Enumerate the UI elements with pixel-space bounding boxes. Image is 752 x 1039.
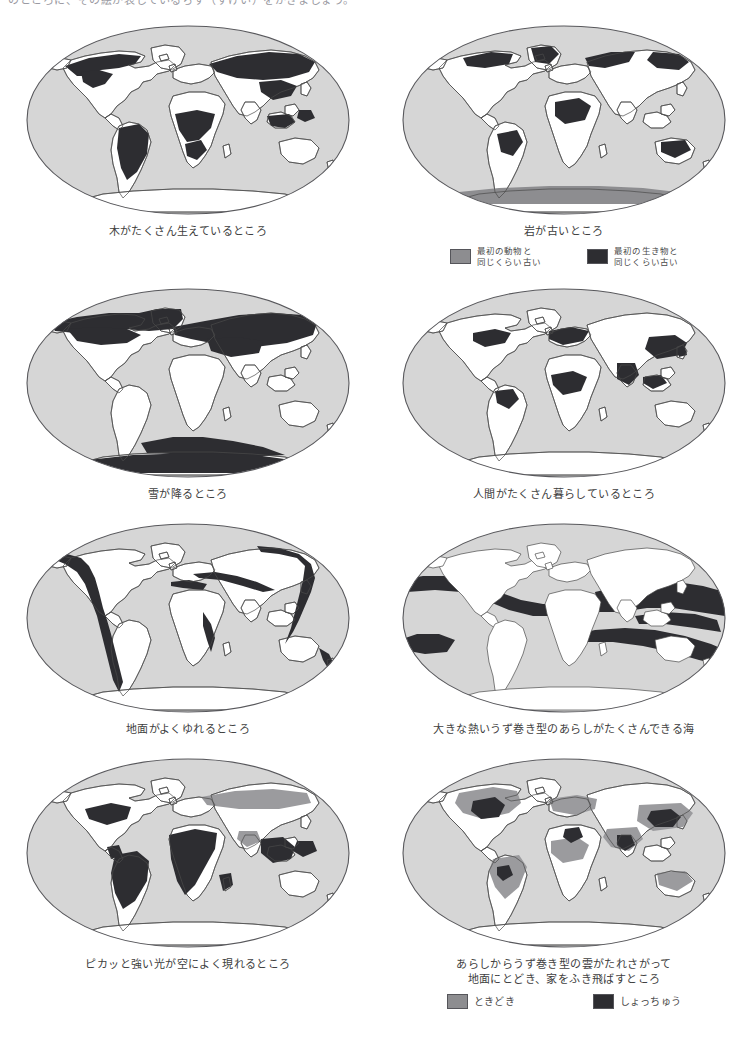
legend-item: しょっちゅう [593, 994, 681, 1009]
world-map-forests [23, 22, 353, 218]
row-spacer [0, 267, 752, 285]
panel-population: 人間がたくさん暮らしているところ [376, 285, 752, 502]
legend-swatch-mid [447, 994, 468, 1009]
world-map-tornadoes [399, 755, 729, 951]
panel-tornadoes: あらしからうず巻き型の雲がたれさがって 地面にとどき、家をふき飛ばすところ とき… [376, 755, 752, 1009]
panel-snow: 雪が降るところ [0, 285, 376, 502]
world-map-lightning [23, 755, 353, 951]
panel-caption: 地面がよくゆれるところ [126, 722, 250, 737]
world-map-old-rock [399, 22, 729, 218]
panel-caption: ピカッと強い光が空によく現れるところ [85, 957, 290, 972]
legend-swatch-dark [593, 994, 614, 1009]
legend-tornadoes: ときどき しょっちゅう [447, 994, 681, 1009]
legend-item: ときどき [447, 994, 515, 1009]
panel-hurricanes: 大きな熱いうず巻き型のあらしがたくさんできる海 [376, 520, 752, 737]
clipped-heading-strip: のところに、その絵が表しているちず（ずけい）をかきましょう。 [0, 0, 752, 11]
panel-lightning: ピカッと強い光が空によく現れるところ [0, 755, 376, 1009]
panel-caption: 岩が古いところ [524, 224, 604, 239]
legend-swatch-mid [450, 249, 471, 264]
panel-caption: あらしからうず巻き型の雲がたれさがって 地面にとどき、家をふき飛ばすところ [456, 957, 672, 987]
panel-caption: 人間がたくさん暮らしているところ [473, 487, 655, 502]
legend-label: 最初の動物と 同じくらい古い [477, 246, 541, 267]
legend-item: 最初の動物と 同じくらい古い [450, 246, 541, 267]
row-spacer [0, 737, 752, 755]
legend-label: 最初の生き物と 同じくらい古い [614, 246, 678, 267]
panel-earthquakes: 地面がよくゆれるところ [0, 520, 376, 737]
map-panel-grid: 木がたくさん生えているところ 岩が古いところ 最初の動物と 同じくらい古い [0, 22, 752, 1009]
row-spacer [0, 502, 752, 520]
legend-item: 最初の生き物と 同じくらい古い [587, 246, 678, 267]
legend-old-rock: 最初の動物と 同じくらい古い 最初の生き物と 同じくらい古い [450, 246, 679, 267]
legend-label: しょっちゅう [620, 996, 681, 1008]
world-map-snow [23, 285, 353, 481]
panel-caption: 木がたくさん生えているところ [109, 224, 268, 239]
panel-old-rock: 岩が古いところ 最初の動物と 同じくらい古い 最初の生き物と 同じくらい古い [376, 22, 752, 267]
clipped-heading-text: のところに、その絵が表しているちず（ずけい）をかきましょう。 [8, 0, 355, 7]
panel-forests: 木がたくさん生えているところ [0, 22, 376, 267]
world-map-earthquakes [23, 520, 353, 716]
legend-label: ときどき [474, 996, 515, 1008]
legend-swatch-dark [587, 249, 608, 264]
panel-caption: 雪が降るところ [148, 487, 228, 502]
world-map-hurricanes [399, 520, 729, 716]
world-map-population [399, 285, 729, 481]
panel-caption: 大きな熱いうず巻き型のあらしがたくさんできる海 [433, 722, 694, 737]
